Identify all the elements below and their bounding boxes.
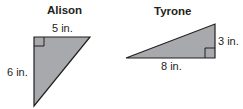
tyrone-title: Tyrone (154, 6, 192, 18)
alison-triangle (34, 37, 90, 106)
tyrone-side-leg-label: 3 in. (218, 36, 239, 47)
tyrone-bottom-leg-label: 8 in. (161, 61, 182, 72)
alison-top-leg-label: 5 in. (52, 23, 73, 34)
triangles-canvas (0, 0, 243, 109)
tyrone-triangle (126, 24, 215, 58)
alison-side-leg-label: 6 in. (7, 67, 28, 78)
alison-title: Alison (47, 5, 82, 17)
